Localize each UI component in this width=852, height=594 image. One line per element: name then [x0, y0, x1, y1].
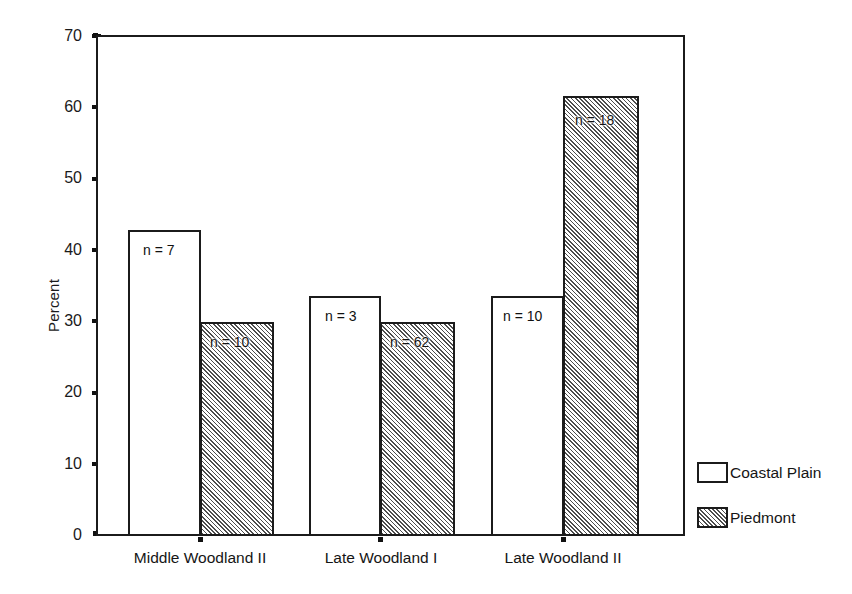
y-tick-label-40: 40	[40, 241, 82, 259]
y-tick-label-20: 20	[40, 383, 82, 401]
bar-value-label: n = 62	[390, 334, 429, 350]
legend-item-piedmont[interactable]: Piedmont	[697, 507, 795, 528]
legend-item-coastal-plain[interactable]: Coastal Plain	[697, 462, 821, 483]
y-tick-label-10: 10	[40, 455, 82, 473]
bar-middle-woodland-ii-piedmont[interactable]	[200, 322, 274, 536]
bar-late-woodland-i-piedmont[interactable]	[380, 322, 455, 536]
x-tick-label-middle-woodland-ii: Middle Woodland II	[100, 549, 300, 567]
bar-value-label: n = 3	[325, 308, 357, 324]
x-tick-label-late-woodland-i: Late Woodland I	[281, 549, 481, 567]
legend-label-coastal-plain: Coastal Plain	[730, 464, 821, 482]
x-tick-label-late-woodland-ii: Late Woodland II	[463, 549, 663, 567]
legend-label-piedmont: Piedmont	[730, 509, 795, 527]
bar-chart-figure: Percent 70 60 50 40 30 20 10 0 n = 7 n =…	[0, 0, 852, 594]
bar-late-woodland-i-coastal-plain[interactable]	[309, 296, 381, 536]
x-tick-mark-late-woodland-ii	[561, 537, 566, 542]
bar-late-woodland-ii-coastal-plain[interactable]	[491, 296, 564, 536]
y-tick-label-0: 0	[40, 526, 82, 544]
bar-value-label: n = 7	[143, 242, 175, 258]
bar-value-label: n = 10	[503, 308, 542, 324]
bar-value-label: n = 18	[575, 112, 614, 128]
x-tick-mark-middle-woodland-ii	[198, 537, 203, 542]
y-tick-label-30: 30	[40, 312, 82, 330]
bar-late-woodland-ii-piedmont[interactable]	[563, 96, 639, 536]
y-axis-title: Percent	[45, 246, 62, 366]
y-tick-label-70: 70	[40, 27, 82, 45]
hatched-swatch-icon	[697, 507, 728, 528]
y-tick-label-60: 60	[40, 98, 82, 116]
white-swatch-icon	[697, 462, 728, 483]
bar-value-label: n = 10	[210, 334, 249, 350]
y-tick-label-50: 50	[40, 169, 82, 187]
bar-middle-woodland-ii-coastal-plain[interactable]	[128, 230, 201, 536]
x-tick-mark-late-woodland-i	[378, 537, 383, 542]
